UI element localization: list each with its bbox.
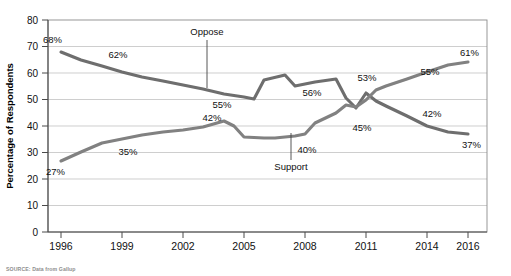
series-label-support: Support [274,161,308,172]
series-label-oppose: Oppose [190,26,223,37]
x-tick-2014: 2014 [415,240,439,252]
x-tick-2008: 2008 [293,240,317,252]
y-tick-10: 10 [27,200,39,211]
line-chart: 80 70 60 50 40 30 20 10 0 1996 1999 2002… [0,0,511,276]
data-label-oppose-1996: 68% [43,34,63,45]
data-label-oppose-2006: 55% [212,99,232,110]
x-tick-2005: 2005 [232,240,256,252]
y-tick-80: 80 [27,15,39,26]
y-tick-40: 40 [27,121,39,132]
data-label-support-2007: 40% [297,144,317,155]
x-tick-marks [61,232,468,238]
x-tick-1996: 1996 [49,240,73,252]
y-tick-50: 50 [27,94,39,105]
data-label-support-2004: 42% [202,112,222,123]
y-tick-60: 60 [27,68,39,79]
data-label-support-2016: 61% [460,47,480,58]
data-label-support-2012: 45% [352,122,372,133]
data-label-oppose-2012: 53% [357,72,377,83]
y-tick-70: 70 [27,41,39,52]
data-label-oppose-2014: 42% [422,108,442,119]
y-tick-30: 30 [27,147,39,158]
y-tick-0: 0 [32,227,38,238]
y-tick-marks [42,20,48,232]
source-caption: SOURCE: Data from Gallup [6,266,76,272]
y-tick-20: 20 [27,174,39,185]
x-tick-2016: 2016 [456,240,480,252]
data-label-oppose-2009: 56% [302,87,322,98]
x-tick-2011: 2011 [355,240,378,252]
chart-svg: 80 70 60 50 40 30 20 10 0 1996 1999 2002… [0,0,511,276]
data-label-oppose-2001: 62% [108,49,128,60]
data-label-support-1999: 35% [118,146,138,157]
data-label-oppose-2016: 37% [462,139,482,150]
y-axis-title: Percentage of Respondents [4,63,15,189]
data-label-support-2014: 55% [420,66,440,77]
x-tick-1999: 1999 [110,240,134,252]
data-label-support-1996: 27% [46,166,66,177]
x-tick-2002: 2002 [171,240,195,252]
